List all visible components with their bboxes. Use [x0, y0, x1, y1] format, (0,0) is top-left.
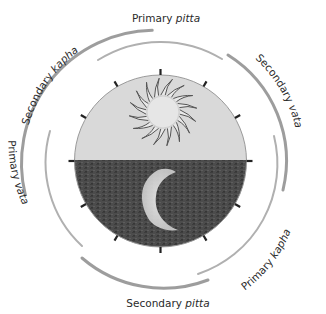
label-primary-kapha: Primary kapha: [239, 227, 293, 292]
dosha-clock-diagram: Primary pitta Secondary vata Primary kap…: [0, 0, 326, 314]
label-primary-vata: Primary vata: [6, 140, 32, 206]
label-secondary-pitta: Secondary pitta: [126, 297, 209, 309]
label-secondary-kapha: Secondary kapha: [19, 43, 80, 126]
label-primary-pitta: Primary pitta: [132, 12, 200, 24]
arc-primary-pitta: [98, 42, 222, 60]
arc-secondary-pitta: [82, 258, 208, 288]
